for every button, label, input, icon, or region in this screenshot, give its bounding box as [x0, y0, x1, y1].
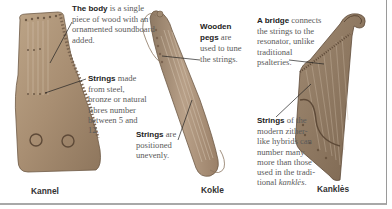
- callout-term: Strings: [257, 116, 285, 125]
- kokle-caption: Kokle: [201, 185, 224, 195]
- kannel-strings-callout: Strings made from steel, bronze or natur…: [88, 73, 148, 135]
- callout-term: Strings: [88, 74, 116, 83]
- kankles-bridge-callout: A bridge connects the strings to the res…: [257, 15, 327, 67]
- kokle-strings-callout: Strings are positioned unevenly.: [136, 129, 180, 161]
- callout-tail: .: [305, 177, 307, 187]
- kokle-pegs-callout: Wooden pegs are used to tune the strings…: [200, 21, 244, 64]
- instrument-illustrations: [0, 0, 392, 209]
- kannel-body-callout: The body is a single piece of wood with …: [72, 3, 162, 45]
- kannel-caption: Kannel: [31, 186, 59, 196]
- callout-term: Strings: [136, 130, 164, 139]
- kankles-strings-callout: Strings of the modern zither-like hybrid…: [257, 115, 319, 187]
- callout-italic: kanklės: [279, 177, 305, 187]
- callout-term: The body: [72, 4, 108, 13]
- callout-term: A bridge: [257, 16, 289, 25]
- kankles-caption: Kanklės: [317, 184, 349, 194]
